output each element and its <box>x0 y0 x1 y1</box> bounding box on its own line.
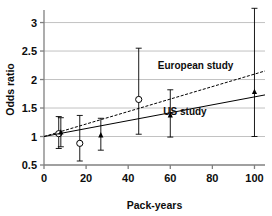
data-point <box>251 8 257 136</box>
annotation-us-study: US study <box>163 106 207 117</box>
marker-filled-triangle <box>252 89 257 94</box>
data-point <box>77 115 83 161</box>
y-axis-ticks: 0.511.522.53 <box>22 17 44 171</box>
x-tick-label: 100 <box>245 172 263 184</box>
x-tick-label: 20 <box>80 172 92 184</box>
marker-open-circle <box>136 96 142 102</box>
y-axis-title: Odds ratio <box>4 63 16 116</box>
marker-filled-triangle <box>98 132 103 137</box>
gridlines <box>44 23 265 137</box>
y-tick-label: 2.5 <box>22 45 37 57</box>
x-axis-ticks: 020406080100 <box>41 165 264 184</box>
x-tick-label: 40 <box>122 172 134 184</box>
data-point <box>136 48 142 134</box>
odds-ratio-chart: 0.511.522.53020406080100Pack-yearsOdds r… <box>0 0 272 216</box>
y-tick-label: 2 <box>31 74 37 86</box>
annotation-european-study: European study <box>158 60 234 71</box>
y-tick-label: 0.5 <box>22 159 37 171</box>
y-tick-label: 1 <box>31 131 37 143</box>
marker-open-circle <box>77 140 83 146</box>
x-tick-label: 0 <box>41 172 47 184</box>
chart-canvas: 0.511.522.53020406080100Pack-yearsOdds r… <box>0 0 272 216</box>
x-axis-title: Pack-years <box>127 199 183 211</box>
data-point <box>98 118 104 150</box>
series-european: European study <box>44 48 265 161</box>
y-tick-label: 3 <box>31 17 37 29</box>
x-tick-label: 80 <box>206 172 218 184</box>
fit-line <box>44 71 265 137</box>
y-tick-label: 1.5 <box>22 102 37 114</box>
x-tick-label: 60 <box>164 172 176 184</box>
